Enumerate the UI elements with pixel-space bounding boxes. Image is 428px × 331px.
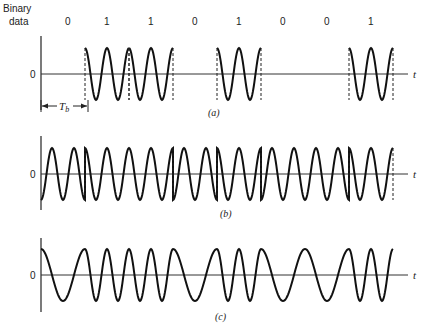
panel-c: 0 t (c) <box>30 238 417 323</box>
bit-labels: 01101001 <box>65 16 374 27</box>
panel-a: 0 t Tb (a) <box>30 36 417 119</box>
bit-label: 0 <box>192 16 198 27</box>
zero-label-a: 0 <box>30 69 36 80</box>
bit-label: 1 <box>104 16 110 27</box>
modulation-diagram: Binary data 01101001 0 t Tb (a) 0 t (b) <box>0 0 428 331</box>
bit-label: 1 <box>368 16 374 27</box>
bit-label: 0 <box>280 16 286 27</box>
zero-label-c: 0 <box>30 270 36 281</box>
bit-label: 0 <box>65 16 71 27</box>
tb-label: Tb <box>59 100 69 114</box>
t-label-b: t <box>413 168 417 180</box>
caption-b: (b) <box>220 208 232 220</box>
binary-data-label-line1: Binary <box>3 3 31 14</box>
zero-label-b: 0 <box>30 169 36 180</box>
bit-label: 0 <box>324 16 330 27</box>
caption-c: (c) <box>215 311 227 323</box>
caption-a: (a) <box>208 107 220 119</box>
binary-data-label-line2: data <box>9 16 29 27</box>
t-label-c: t <box>413 269 417 281</box>
bit-label: 1 <box>236 16 242 27</box>
panel-b: 0 t (b) <box>30 136 417 220</box>
bit-label: 1 <box>148 16 154 27</box>
t-label-a: t <box>413 68 417 80</box>
bit-period-marker: Tb <box>41 100 88 114</box>
